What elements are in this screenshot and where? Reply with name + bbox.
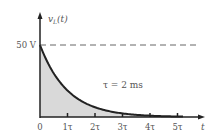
x-axis-arrow-icon [198,115,205,120]
x-tick-label: 3τ [117,122,127,132]
x-tick-labels: 01τ2τ3τ4τ5τ [37,122,183,132]
x-tick-label: 2τ [90,122,100,132]
initial-value-label: 50 V [16,40,37,50]
y-axis-label: vL(t) [48,14,68,25]
x-tick-label: 5τ [172,122,182,132]
chart-svg: vL(t) 50 V τ = 2 ms t 01τ2τ3τ4τ5τ [0,0,217,135]
tau-annotation: τ = 2 ms [103,80,143,90]
y-axis-arrow-icon [38,12,43,19]
x-tick-label: 0 [37,122,42,132]
x-axis-label: t [201,122,205,132]
x-tick-label: 1τ [62,122,72,132]
x-tick-label: 4τ [145,122,155,132]
